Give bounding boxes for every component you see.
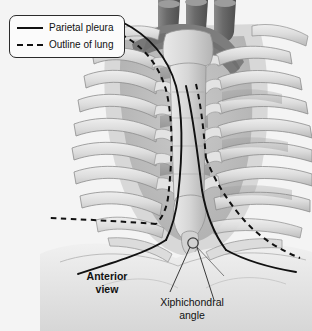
xiphichondral-line-1: Xiphichondral <box>137 296 247 309</box>
legend-item-outline-of-lung: Outline of lung <box>17 38 114 52</box>
anterior-view-line-2: view <box>74 283 140 296</box>
dashed-line-swatch-icon <box>17 40 43 50</box>
legend-item-parietal-pleura: Parietal pleura <box>17 21 113 35</box>
xiphichondral-angle-label: Xiphichondral angle <box>137 296 247 321</box>
legend: Parietal pleura Outline of lung <box>9 15 125 58</box>
legend-label-parietal-pleura: Parietal pleura <box>49 22 113 34</box>
legend-label-outline-of-lung: Outline of lung <box>49 39 114 51</box>
anterior-view-label: Anterior view <box>74 270 140 295</box>
anterior-view-line-1: Anterior <box>74 270 140 283</box>
solid-line-swatch-icon <box>17 23 43 33</box>
xiphichondral-line-2: angle <box>137 309 247 322</box>
figure-canvas: Parietal pleura Outline of lung Anterior… <box>0 0 312 331</box>
